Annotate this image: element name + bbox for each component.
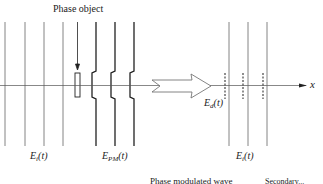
caption-left: Phase modulated wave bbox=[150, 176, 232, 184]
propagation-arrow bbox=[152, 74, 211, 98]
incident-wave-right-label: Ei(t) bbox=[236, 150, 254, 163]
caption-right: Secondary... bbox=[265, 177, 304, 184]
diffracted-wave-label: Ed(t) bbox=[204, 97, 223, 110]
incident-wavefronts-right bbox=[229, 22, 267, 146]
label-arg: (t) bbox=[38, 150, 47, 161]
incident-wavefronts-left bbox=[5, 22, 63, 146]
phase-modulated-wave-label: EPM(t) bbox=[102, 150, 128, 163]
phase-modulated-wavefronts bbox=[92, 22, 134, 146]
incident-wave-left-label: Ei(t) bbox=[30, 150, 48, 163]
phase-object-pointer bbox=[76, 22, 80, 70]
phase-object bbox=[75, 73, 80, 97]
label-arg: (t) bbox=[118, 150, 127, 161]
diagram-svg bbox=[0, 0, 323, 184]
phase-object-label: Phase object bbox=[53, 3, 103, 14]
phase-contrast-diagram: Phase object Ei(t) EPM(t) Ed(t) Ei(t) x … bbox=[0, 0, 323, 184]
axis-label-x: x bbox=[310, 78, 315, 90]
label-arg: (t) bbox=[244, 150, 253, 161]
optical-axis bbox=[0, 84, 307, 88]
label-sub: PM bbox=[108, 155, 118, 163]
diffracted-wavefronts bbox=[225, 73, 263, 99]
label-arg: (t) bbox=[214, 97, 223, 108]
